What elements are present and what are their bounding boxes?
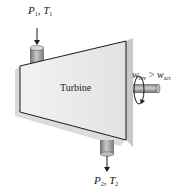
turbine-title: Turbine [60, 83, 91, 93]
work-inequality-label: wrev > wact [132, 70, 171, 81]
turbine-diagram [0, 0, 183, 194]
inlet-state-label: P1, T1 [28, 5, 52, 17]
outlet-arrow-icon [104, 156, 110, 172]
outlet-state-label: P2, T2 [94, 175, 118, 187]
inlet-arrow-icon [34, 28, 40, 45]
outlet-pipe [100, 140, 114, 156]
output-shaft [133, 84, 160, 93]
